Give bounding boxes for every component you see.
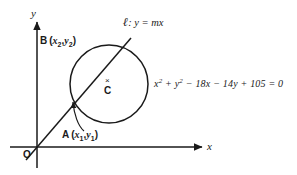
center-label: C <box>104 86 111 96</box>
point-a-x-sub: 1 <box>80 135 84 142</box>
point-b-x-sub: 2 <box>58 41 62 48</box>
y-axis-label: y <box>31 8 36 19</box>
point-b-name: B <box>40 35 47 46</box>
line-equation-label: ℓ: y = mx <box>123 16 164 29</box>
eq-rest: − 18x − 14y + 105 = 0 <box>183 78 283 89</box>
geometry-figure: y x O ℓ: y = mx B (x2,y2) A (x1,y1) × C … <box>0 0 297 175</box>
eq-plus: + <box>162 78 174 89</box>
origin-label: O <box>23 150 31 160</box>
line-equation-text: : y = mx <box>128 17 163 28</box>
center-cross-icon: × <box>105 77 110 85</box>
leader-arrow-a <box>73 102 84 131</box>
x-axis-label: x <box>207 141 212 152</box>
circle-equation-label: x2 + y2 − 18x − 14y + 105 = 0 <box>154 78 283 89</box>
point-a-label: A (x1,y1) <box>62 130 98 142</box>
point-b-label: B (x2,y2) <box>40 36 76 48</box>
point-a-y-sub: 1 <box>91 135 95 142</box>
point-b-y-sub: 2 <box>69 41 73 48</box>
point-a-name: A <box>62 129 69 140</box>
